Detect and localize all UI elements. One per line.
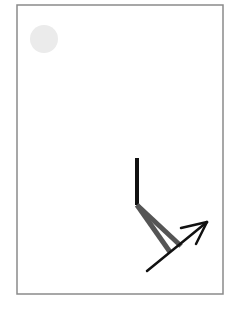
diagram-canvas — [0, 0, 234, 310]
circle-sun-icon — [30, 25, 58, 53]
